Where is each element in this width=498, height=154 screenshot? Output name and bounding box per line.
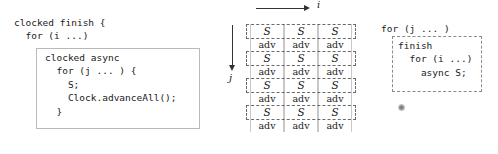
grid-cell-s-r3c2: S [318, 106, 352, 119]
j-axis-arrow-head [229, 65, 235, 71]
middle-grid-panel: i j S S S adv adv adv S [216, 0, 370, 154]
grid-cell-s-r1c2: S [318, 52, 352, 65]
i-axis-arrow-shaft [256, 8, 306, 9]
grid-cell-adv-r1c2: adv [318, 65, 352, 78]
i-axis-label: i [317, 0, 320, 10]
grid-cell-adv-r3c2: adv [318, 119, 352, 132]
scan-artifact-dot [398, 104, 405, 111]
right-code-panel: for (j ... ) finish for (i ...) async S; [370, 0, 498, 154]
grid-cell-s-r0c0: S [250, 25, 284, 38]
grid-cell-s-r0c2: S [318, 25, 352, 38]
grid-cell-adv-r0c1: adv [284, 38, 318, 51]
grid-cell-s-r2c2: S [318, 79, 352, 92]
j-axis-arrow-icon [228, 25, 238, 73]
right-outer-code-text: for (j ... ) [381, 22, 450, 35]
left-code-panel: clocked finish { for (i ...) clocked asy… [0, 0, 216, 154]
grid-cell-adv-r1c0: adv [250, 65, 284, 78]
left-inner-code-text: clocked async for (j ... ) { S; Clock.ad… [45, 51, 177, 118]
right-inner-code-text: finish for (i ...) async S; [398, 39, 472, 79]
grid-cell-s-r0c1: S [284, 25, 318, 38]
i-axis-arrow-icon [256, 4, 312, 14]
i-axis-arrow-head [304, 5, 310, 11]
grid-cell-adv-r0c2: adv [318, 38, 352, 51]
grid-cell-adv-r2c1: adv [284, 92, 318, 105]
j-axis-arrow-shaft [232, 25, 233, 67]
grid-cell-adv-r2c2: adv [318, 92, 352, 105]
left-outer-code-text: clocked finish { for (i ...) [14, 16, 106, 43]
grid-cell-s-r2c1: S [284, 79, 318, 92]
grid-cell-s-r3c1: S [284, 106, 318, 119]
grid-cell-s-r1c1: S [284, 52, 318, 65]
grid-cell-adv-r0c0: adv [250, 38, 284, 51]
j-axis-label: j [229, 72, 232, 83]
iteration-grid: S S S adv adv adv S S S adv adv adv S S … [250, 24, 352, 132]
grid-cell-adv-r2c0: adv [250, 92, 284, 105]
grid-cell-adv-r1c1: adv [284, 65, 318, 78]
grid-cell-adv-r3c1: adv [284, 119, 318, 132]
grid-cell-adv-r3c0: adv [250, 119, 284, 132]
grid-cell-s-r1c0: S [250, 52, 284, 65]
figure-canvas: clocked finish { for (i ...) clocked asy… [0, 0, 498, 154]
grid-cell-s-r2c0: S [250, 79, 284, 92]
grid-cell-s-r3c0: S [250, 106, 284, 119]
